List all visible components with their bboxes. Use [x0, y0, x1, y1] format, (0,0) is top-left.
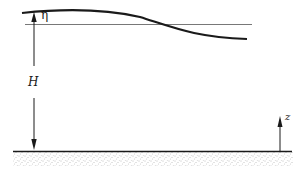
sea-bed-sediment: [13, 152, 293, 166]
z-axis-label: z: [285, 112, 290, 122]
diagram-canvas: [0, 0, 303, 173]
depth-label: H: [28, 76, 38, 88]
z-axis-arrow: [278, 116, 283, 151]
eta-label: η: [41, 9, 48, 21]
